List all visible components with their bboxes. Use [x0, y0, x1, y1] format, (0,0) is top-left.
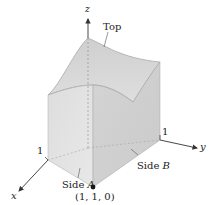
side-b-prefix: Side [137, 160, 163, 171]
z-axis-label: z [85, 5, 90, 14]
x-axis-label: x [11, 191, 17, 201]
y-tick-label: 1 [162, 127, 168, 137]
x-axis [19, 160, 48, 191]
x-tick-mark [45, 157, 48, 160]
solid-region-diagram: z x y 1 1 Top Side A Side B (1, 1, 0) [0, 0, 214, 205]
top-label: Top [103, 22, 121, 32]
side-a-face [48, 85, 93, 187]
x-tick-label: 1 [37, 146, 43, 156]
side-a-label: Side A [62, 180, 95, 190]
top-leader [104, 32, 108, 47]
y-axis [160, 140, 197, 148]
side-a-prefix: Side [62, 179, 88, 190]
y-axis-label: y [200, 142, 206, 152]
side-a-letter: A [88, 179, 95, 190]
side-b-label: Side B [137, 161, 170, 171]
corner-point-label: (1, 1, 0) [75, 192, 115, 202]
side-b-letter: B [163, 160, 170, 171]
